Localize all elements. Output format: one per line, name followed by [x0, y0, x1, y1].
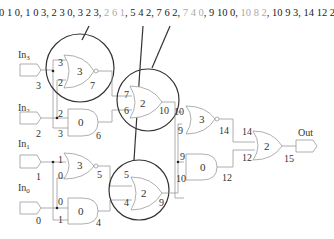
svg-text:0: 0 [200, 161, 206, 173]
svg-text:5: 5 [97, 169, 102, 180]
seq-item-faded: 2 6 1 [104, 7, 125, 18]
input-port-in0: In0 0 [18, 182, 41, 226]
svg-text:10: 10 [159, 105, 169, 116]
svg-text:9: 9 [178, 125, 183, 136]
svg-text:6: 6 [96, 130, 101, 141]
seq-item: 7 6 2 [157, 7, 178, 18]
svg-text:2: 2 [58, 77, 63, 88]
svg-text:0: 0 [36, 215, 41, 226]
svg-text:In3: In3 [18, 49, 30, 62]
seq-item: 2 3 0 [52, 7, 73, 18]
svg-text:10: 10 [174, 106, 184, 117]
svg-text:15: 15 [284, 153, 294, 164]
output-port-out: Out [296, 127, 317, 152]
svg-text:2: 2 [36, 128, 41, 139]
pointer-line [152, 26, 170, 68]
input-port-in1: In1 1 [18, 138, 41, 182]
gate-or-15: 14 12 2 15 [242, 126, 294, 164]
svg-text:0: 0 [58, 196, 63, 207]
svg-text:2: 2 [141, 187, 147, 199]
svg-text:7: 7 [124, 89, 129, 100]
svg-text:10: 10 [176, 173, 186, 184]
gate-or-9: 5 4 2 9 [124, 169, 164, 210]
gate-nor-14: 10 9 3 14 [174, 106, 229, 136]
svg-text:1: 1 [58, 214, 63, 225]
svg-text:2: 2 [264, 140, 270, 152]
svg-text:9: 9 [159, 197, 164, 208]
seq-item: 0 1 0 [0, 7, 20, 18]
input-port-in3: In3 3 [18, 49, 41, 91]
gate-and-12: 9 10 0 12 [176, 151, 232, 184]
svg-text:3: 3 [58, 57, 63, 68]
svg-text:12: 12 [242, 152, 252, 163]
svg-text:3: 3 [36, 80, 41, 91]
svg-text:3: 3 [77, 65, 83, 77]
svg-text:0: 0 [78, 205, 84, 217]
svg-text:7: 7 [90, 80, 95, 91]
svg-text:14: 14 [242, 126, 252, 137]
seq-item: 14 12 2 [304, 7, 334, 18]
svg-text:0: 0 [78, 116, 84, 128]
seq-item: 5 4 2 [130, 7, 151, 18]
svg-text:6: 6 [124, 105, 129, 116]
svg-text:2: 2 [140, 97, 146, 109]
input-port-in2: In2 2 [18, 102, 41, 139]
seq-item: 9 10 0 [209, 7, 235, 18]
svg-text:1: 1 [36, 171, 41, 182]
gate-sequence: 0 1 0, 1 0 3, 2 3 0, 3 2 3, 2 6 1, 5 4 2… [0, 7, 334, 18]
svg-text:9: 9 [180, 151, 185, 162]
svg-text:3: 3 [199, 113, 205, 125]
svg-text:In0: In0 [18, 182, 30, 195]
pointer-line [140, 26, 143, 68]
svg-text:5: 5 [124, 169, 129, 180]
svg-text:Out: Out [298, 127, 313, 138]
gate-and-6: 2 3 0 6 [58, 108, 101, 141]
seq-item-faded: 10 8 2 [241, 7, 267, 18]
circuit-diagram: 0 1 0, 1 0 3, 2 3 0, 3 2 3, 2 6 1, 5 4 2… [0, 0, 334, 239]
svg-text:2: 2 [58, 108, 63, 119]
svg-text:0: 0 [58, 170, 63, 181]
seq-item: 3 2 3 [78, 7, 99, 18]
pointer-line [82, 26, 89, 40]
gate-nor-5: 1 0 3 5 [58, 153, 102, 181]
svg-text:1: 1 [58, 154, 63, 165]
svg-text:14: 14 [219, 125, 229, 136]
svg-text:3: 3 [58, 128, 63, 139]
svg-text:3: 3 [77, 159, 83, 171]
seq-item: 1 0 3 [25, 7, 46, 18]
svg-text:12: 12 [222, 172, 232, 183]
gate-and-4: 0 1 0 4 [58, 196, 101, 228]
svg-text:In1: In1 [18, 138, 30, 151]
svg-text:4: 4 [96, 217, 101, 228]
seq-item: 10 9 3 [272, 7, 298, 18]
svg-text:4: 4 [124, 197, 129, 208]
seq-item-faded: 7 4 0 [183, 7, 204, 18]
